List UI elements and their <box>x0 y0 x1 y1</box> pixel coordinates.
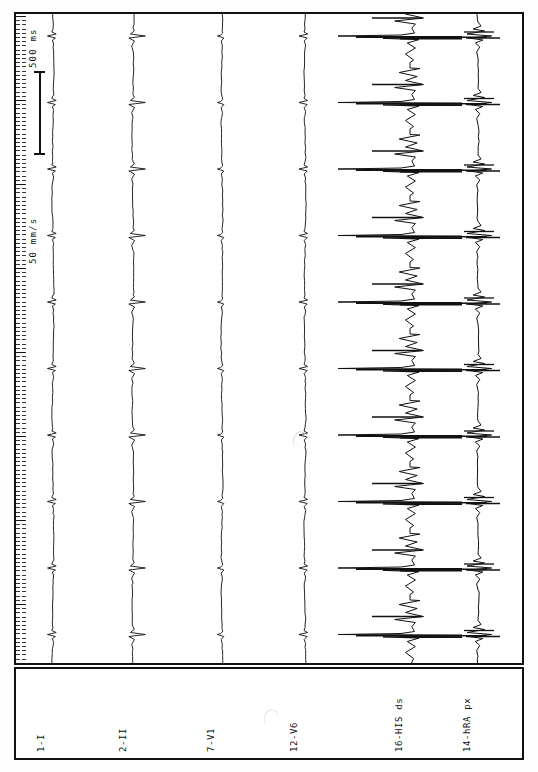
trace-1-i <box>48 14 57 663</box>
channel-label-2: 2-II <box>118 728 128 752</box>
channel-label-5: 16-HIS ds <box>394 698 404 752</box>
paper-smudge-2 <box>262 707 280 727</box>
recording-strip-frame: 500 ms 50 mm/s <box>14 12 524 665</box>
trace-14-hra-px <box>467 14 492 663</box>
ecg-strip-page: 500 ms 50 mm/s 1-I 2-II 7-V1 12-V6 16-HI… <box>0 0 538 772</box>
time-scale-bar-cap-bottom <box>34 153 45 155</box>
time-scale-bar-cap-top <box>34 71 45 73</box>
channel-label-4: 12-V6 <box>289 722 299 752</box>
ecg-traces <box>16 14 522 663</box>
trace-2-ii <box>129 14 146 663</box>
duration-label: 500 ms <box>28 28 38 68</box>
channel-label-panel: 1-I 2-II 7-V1 12-V6 16-HIS ds 14-hRA px <box>14 667 524 760</box>
trace-7-v1 <box>218 14 224 663</box>
channel-label-3: 7-V1 <box>206 728 216 752</box>
paper-speed-label: 50 mm/s <box>28 218 38 264</box>
trace-12-v6 <box>299 14 308 663</box>
channel-label-1: 1-I <box>36 734 46 752</box>
channel-label-6: 14-hRA px <box>462 698 472 752</box>
trace-16-his-ds <box>338 14 487 663</box>
time-scale-bar <box>39 71 41 153</box>
